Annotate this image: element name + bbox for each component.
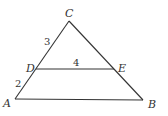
side-ca (15, 21, 69, 99)
length-label-cd: 3 (44, 36, 50, 47)
vertex-label-c: C (65, 7, 74, 20)
length-label-da: 2 (15, 78, 21, 89)
triangle-diagram: C A B D E 3 2 4 (0, 0, 168, 116)
vertex-label-d: D (25, 62, 35, 75)
length-label-de: 4 (73, 57, 79, 68)
vertex-label-b: B (147, 98, 156, 111)
vertex-label-a: A (2, 97, 11, 110)
vertex-label-e: E (117, 62, 126, 75)
side-cb (69, 21, 143, 100)
side-ab (15, 99, 143, 100)
